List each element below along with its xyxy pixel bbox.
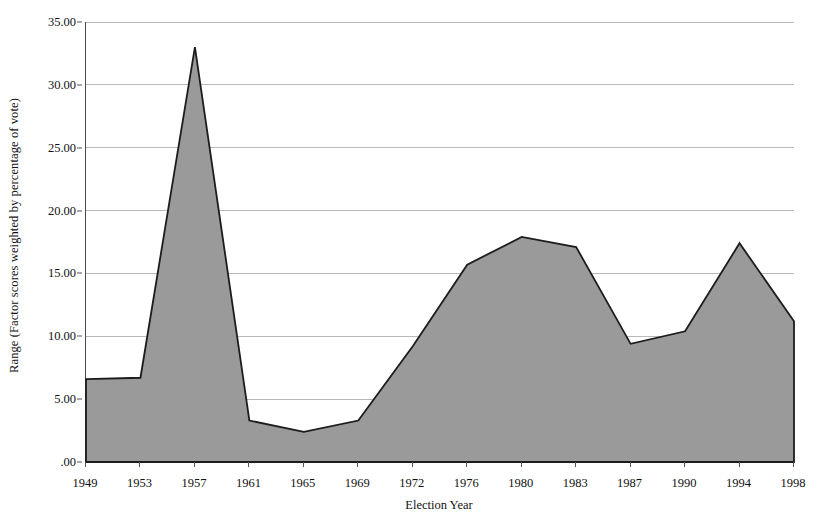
x-tick-mark (575, 462, 576, 467)
y-tick-label: 10.00 (48, 329, 76, 344)
x-tick-label: 1990 (672, 476, 697, 491)
x-tick-label: 1949 (73, 476, 98, 491)
x-tick-label: 1976 (454, 476, 479, 491)
y-tick-mark (77, 273, 82, 274)
x-axis-title: Election Year (85, 498, 793, 513)
area-chart: Range (Factor scores weighted by percent… (0, 0, 829, 528)
x-tick-label: 1965 (290, 476, 315, 491)
x-tick-mark (466, 462, 467, 467)
y-tick-mark (77, 210, 82, 211)
y-tick-mark (77, 462, 82, 463)
x-tick-mark (303, 462, 304, 467)
x-tick-label: 1998 (781, 476, 806, 491)
y-tick-mark (77, 399, 82, 400)
x-tick-mark (739, 462, 740, 467)
x-tick-mark (248, 462, 249, 467)
x-tick-mark (521, 462, 522, 467)
x-tick-label: 1980 (508, 476, 533, 491)
y-axis-tick-group: 35.0030.0025.0020.0015.0010.005.00.00 (20, 0, 82, 528)
y-tick-label: 25.00 (48, 140, 76, 155)
x-tick-label: 1972 (399, 476, 424, 491)
y-tick-label: 35.00 (48, 15, 76, 30)
area-series-range (86, 47, 794, 462)
y-tick-label: .00 (60, 455, 76, 470)
x-tick-label: 1969 (345, 476, 370, 491)
x-axis-tick-group: 1949195319571961196519691972197619801983… (85, 462, 793, 528)
x-tick-label: 1953 (127, 476, 152, 491)
y-tick-mark (77, 84, 82, 85)
x-tick-mark (139, 462, 140, 467)
x-tick-label: 1983 (563, 476, 588, 491)
y-tick-mark (77, 22, 82, 23)
x-tick-mark (85, 462, 86, 467)
x-tick-mark (793, 462, 794, 467)
y-tick-mark (77, 147, 82, 148)
y-tick-label: 20.00 (48, 203, 76, 218)
y-tick-label: 30.00 (48, 77, 76, 92)
y-tick-label: 5.00 (54, 392, 76, 407)
plot-area (85, 22, 794, 463)
x-tick-mark (412, 462, 413, 467)
x-tick-mark (194, 462, 195, 467)
x-tick-mark (357, 462, 358, 467)
x-tick-label: 1987 (617, 476, 642, 491)
x-tick-label: 1957 (181, 476, 206, 491)
y-tick-label: 15.00 (48, 266, 76, 281)
x-tick-mark (630, 462, 631, 467)
x-tick-label: 1994 (726, 476, 751, 491)
x-tick-label: 1961 (236, 476, 261, 491)
x-tick-mark (684, 462, 685, 467)
y-tick-mark (77, 336, 82, 337)
series-layer (86, 22, 794, 462)
